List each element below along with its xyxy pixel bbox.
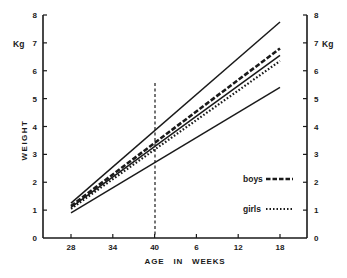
x-tick-label: 28 [67,243,76,252]
series-group [71,22,280,213]
y-tick-label-left: 3 [33,150,38,159]
weight-growth-chart: 012345678 012345678 28344061218 Kg Kg WE… [0,0,347,278]
right-unit-label: Kg [322,39,333,49]
y-tick-label-right: 0 [314,234,319,243]
left-unit-label: Kg [13,39,24,49]
legend: boys girls [243,174,293,214]
x-tick-label: 6 [194,243,199,252]
y-tick-label-left: 2 [33,178,38,187]
x-tick-label: 12 [234,243,243,252]
x-tick-label: 40 [150,243,159,252]
x-tick-label: 34 [108,243,117,252]
y-tick-label-left: 0 [33,234,38,243]
left-y-ticks: 012345678 [33,11,47,243]
series-line-mean [71,55,280,207]
legend-label-boys: boys [243,174,263,184]
right-y-ticks: 012345678 [303,11,319,243]
y-tick-label-left: 8 [33,11,38,20]
y-tick-label-right: 4 [314,123,319,132]
y-tick-label-left: 1 [33,206,38,215]
x-axis-title: AGE IN WEEKS [145,257,226,266]
y-tick-label-right: 3 [314,150,319,159]
x-ticks: 28344061218 [67,234,285,252]
y-tick-label-right: 1 [314,206,319,215]
series-line-lower-limit [71,87,280,212]
y-tick-label-right: 2 [314,178,319,187]
chart-svg: 012345678 012345678 28344061218 Kg Kg WE… [0,0,347,278]
y-tick-label-right: 8 [314,11,319,20]
legend-label-girls: girls [243,204,261,214]
y-tick-label-right: 5 [314,95,319,104]
y-axis-title: WEIGHT [20,120,29,161]
y-tick-label-left: 5 [33,95,38,104]
y-tick-label-left: 6 [33,67,38,76]
y-tick-label-right: 6 [314,67,319,76]
y-tick-label-left: 4 [33,123,38,132]
y-tick-label-left: 7 [33,39,38,48]
y-tick-label-right: 7 [314,39,319,48]
series-line-girls [71,61,280,209]
x-tick-label: 18 [276,243,285,252]
